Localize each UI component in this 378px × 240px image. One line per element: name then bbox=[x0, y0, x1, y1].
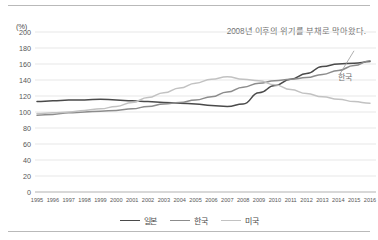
bottom-divider bbox=[8, 231, 370, 232]
y-axis-tick-label: 0 bbox=[27, 188, 31, 197]
x-axis-tick-label: 2011 bbox=[285, 197, 297, 203]
x-axis-tick-label: 1997 bbox=[62, 197, 74, 203]
y-axis-tick-label: 160 bbox=[19, 60, 31, 69]
legend-line-swatch bbox=[170, 220, 190, 221]
series-lines-group bbox=[37, 61, 370, 115]
x-axis-tick-label: 2012 bbox=[300, 197, 312, 203]
series-line bbox=[37, 61, 370, 115]
x-axis-tick-label: 2016 bbox=[364, 197, 376, 203]
x-axis-tick-label: 2007 bbox=[221, 197, 233, 203]
y-axis-tick-label: 80 bbox=[23, 124, 31, 133]
x-axis-tick-label: 2010 bbox=[269, 197, 281, 203]
x-axis-tick-label: 2000 bbox=[110, 197, 122, 203]
series-callout-label: 한국 bbox=[338, 71, 352, 82]
y-axis-tick-label: 40 bbox=[23, 156, 31, 165]
chart-legend: 일본한국미국 bbox=[0, 215, 378, 226]
y-axis-tick-labels: 020406080100120140160180200 bbox=[19, 28, 31, 197]
chart-figure: (%) 2008년 이후의 위기를 부채로 막아왔다. 020406080100… bbox=[0, 0, 378, 240]
legend-label: 한국 bbox=[194, 215, 208, 226]
x-axis-tick-label: 1996 bbox=[47, 197, 59, 203]
x-axis-tick-label: 1999 bbox=[94, 197, 106, 203]
x-axis-tick-labels: 1995199619971998199920002001200220032004… bbox=[31, 197, 376, 203]
x-axis-tick-label: 2006 bbox=[205, 197, 217, 203]
y-axis-tick-label: 20 bbox=[23, 172, 31, 181]
legend-item[interactable]: 미국 bbox=[221, 215, 259, 226]
top-divider bbox=[8, 5, 370, 6]
y-axis-tick-label: 60 bbox=[23, 140, 31, 149]
x-axis-tick-label: 2001 bbox=[126, 197, 138, 203]
legend-item[interactable]: 일본 bbox=[120, 215, 158, 226]
legend-line-swatch bbox=[120, 220, 140, 221]
x-axis-tick-label: 2009 bbox=[253, 197, 265, 203]
legend-label: 미국 bbox=[245, 215, 259, 226]
x-axis-tick-label: 2014 bbox=[332, 197, 344, 203]
x-axis-tick-label: 2004 bbox=[173, 197, 185, 203]
series-line bbox=[37, 77, 370, 114]
x-axis-tick-label: 2008 bbox=[237, 197, 249, 203]
x-axis-tick-label: 2005 bbox=[189, 197, 201, 203]
legend-item[interactable]: 한국 bbox=[170, 215, 208, 226]
series-line bbox=[37, 62, 370, 107]
x-axis-tick-label: 2002 bbox=[142, 197, 154, 203]
y-axis-tick-label: 200 bbox=[19, 28, 31, 37]
y-axis-tick-label: 100 bbox=[19, 108, 31, 117]
x-axis-tick-label: 2015 bbox=[348, 197, 360, 203]
y-axis-tick-label: 180 bbox=[19, 44, 31, 53]
legend-label: 일본 bbox=[144, 215, 158, 226]
legend-line-swatch bbox=[221, 220, 241, 221]
y-axis-tick-label: 120 bbox=[19, 92, 31, 101]
plot-area: (%) 2008년 이후의 위기를 부채로 막아왔다. 020406080100… bbox=[0, 8, 378, 210]
x-axis-tick-label: 1995 bbox=[31, 197, 43, 203]
y-axis-tick-label: 140 bbox=[19, 76, 31, 85]
line-chart-canvas: 020406080100120140160180200 199519961997… bbox=[0, 8, 378, 210]
x-axis-tick-label: 2003 bbox=[158, 197, 170, 203]
x-axis-tick-label: 1998 bbox=[78, 197, 90, 203]
x-axis-tick-label: 2013 bbox=[316, 197, 328, 203]
